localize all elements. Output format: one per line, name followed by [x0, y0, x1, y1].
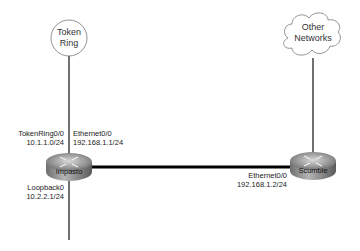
- interface-address: 192.168.1.1/24: [73, 138, 123, 147]
- interface-name: TokenRing0/0: [18, 129, 64, 138]
- router-scumble[interactable]: Scumble: [290, 152, 336, 180]
- router-impasto-label: Impasto: [56, 167, 83, 176]
- interface-name: Ethernet0/0: [73, 129, 112, 138]
- network-diagram: Token Ring Other Networks Impasto Scumbl…: [0, 0, 360, 251]
- interface-name: Loopback0: [27, 183, 64, 192]
- interface-name: Ethernet0/0: [248, 171, 287, 180]
- other-networks-label-line2: Networks: [294, 33, 332, 43]
- impasto-loopback-interface-label: Loopback0 10.2.2.1/24: [26, 183, 64, 201]
- impasto-tokenring-interface-label: TokenRing0/0 10.1.1.0/24: [18, 129, 64, 147]
- token-ring-label-line2: Ring: [60, 38, 79, 48]
- interface-address: 10.1.1.0/24: [26, 138, 64, 147]
- interface-address: 192.168.1.2/24: [237, 180, 287, 189]
- other-networks-label-line1: Other: [302, 22, 325, 32]
- token-ring-label-line1: Token: [57, 27, 81, 37]
- router-scumble-label: Scumble: [298, 166, 327, 175]
- other-networks-cloud[interactable]: Other Networks: [284, 13, 341, 55]
- interface-address: 10.2.2.1/24: [26, 192, 64, 201]
- impasto-ethernet-interface-label: Ethernet0/0 192.168.1.1/24: [73, 129, 123, 147]
- token-ring-network[interactable]: Token Ring: [51, 20, 87, 56]
- router-impasto[interactable]: Impasto: [46, 153, 92, 181]
- scumble-ethernet-interface-label: Ethernet0/0 192.168.1.2/24: [237, 171, 287, 189]
